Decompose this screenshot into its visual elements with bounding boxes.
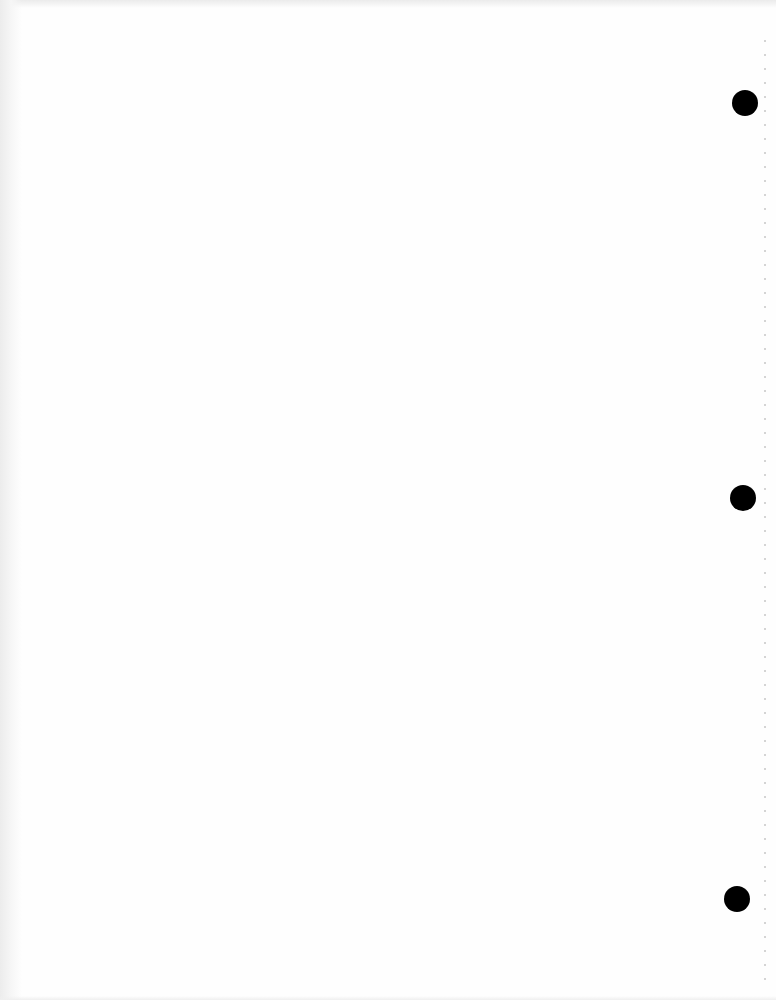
punch-hole-bottom-icon — [724, 886, 750, 912]
bottom-edge-shadow — [0, 996, 776, 1000]
punch-hole-middle-icon — [730, 485, 756, 511]
right-edge-perforation — [764, 40, 766, 980]
scanned-page — [0, 0, 776, 1000]
top-edge-shadow — [0, 0, 776, 8]
left-edge-shadow — [0, 0, 22, 1000]
punch-hole-top-icon — [732, 90, 758, 116]
